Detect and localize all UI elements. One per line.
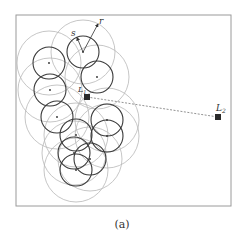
sensor-node-dot <box>106 135 108 137</box>
landmark-l2-marker <box>215 114 221 120</box>
sensor-node-dot <box>49 89 51 91</box>
sensor-node-dot <box>75 134 77 136</box>
sensor-node-dot <box>75 169 77 171</box>
coverage-diagram: s r L1 L2 <box>0 0 244 242</box>
sensor-node-dot <box>73 152 75 154</box>
sensor-node-dot <box>56 116 58 118</box>
plot-frame <box>16 15 231 206</box>
sensor-node-dot <box>96 76 98 78</box>
sensor-node-dot <box>89 158 91 160</box>
outer-radius-label: r <box>99 16 104 26</box>
sensor-node-dot <box>106 119 108 121</box>
inner-radius-label: s <box>71 28 76 38</box>
sensor-node-dot <box>48 62 50 64</box>
figure-caption: (a) <box>0 218 244 231</box>
